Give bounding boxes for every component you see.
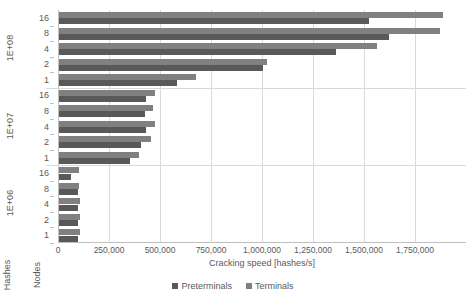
y-tick-label-node: 16 — [9, 13, 49, 23]
y-tick-label-node: 1 — [9, 153, 49, 163]
legend-item[interactable]: Terminals — [246, 281, 294, 291]
bar-terminals — [59, 167, 79, 173]
bar-terminals — [59, 59, 267, 65]
x-tick-label: 1,000,000 — [243, 245, 281, 256]
bar-preterminals — [59, 34, 389, 40]
x-tick-label: 1,750,000 — [396, 245, 434, 256]
y-tick-mark — [50, 243, 54, 244]
y-tick-mark — [50, 196, 54, 197]
bar-preterminals — [59, 65, 263, 71]
legend-label: Preterminals — [181, 281, 232, 291]
bar-chart: 1684211E+081684211E+071684211E+06 0250,0… — [0, 0, 466, 303]
y-tick-mark — [50, 41, 54, 42]
bar-terminals — [59, 28, 440, 34]
x-tick-label: 750,000 — [196, 245, 227, 256]
bar-terminals — [59, 152, 139, 158]
bar-preterminals — [59, 127, 146, 133]
bar-preterminals — [59, 142, 141, 148]
bar-terminals — [59, 198, 80, 204]
x-tick-label: 500,000 — [145, 245, 176, 256]
bar-terminals — [59, 121, 155, 127]
y-tick-mark — [50, 181, 54, 182]
bar-terminals — [59, 105, 153, 111]
bar-preterminals — [59, 205, 78, 211]
y-tick-label-node: 4 — [9, 122, 49, 132]
y-tick-label-node: 1 — [9, 75, 49, 85]
bar-preterminals — [59, 49, 336, 55]
y-tick-label-node: 1 — [9, 230, 49, 240]
y-tick-label-node: 8 — [9, 28, 49, 38]
y-axis-group-label: 1E+08 — [5, 18, 15, 78]
legend-item[interactable]: Preterminals — [172, 281, 232, 291]
bar-preterminals — [59, 174, 71, 180]
y-tick-label-node: 8 — [9, 184, 49, 194]
bar-terminals — [59, 74, 196, 80]
y-axis-group-label: 1E+06 — [5, 173, 15, 233]
legend-swatch-icon — [246, 283, 252, 289]
legend-swatch-icon — [172, 283, 178, 289]
y-tick-mark — [50, 227, 54, 228]
bar-preterminals — [59, 111, 145, 117]
y-axis-group-label: 1E+07 — [5, 96, 15, 156]
bar-preterminals — [59, 18, 369, 24]
legend-label: Terminals — [255, 281, 294, 291]
group-separator — [46, 88, 466, 89]
bar-terminals — [59, 90, 155, 96]
bar-preterminals — [59, 80, 177, 86]
group-separator — [46, 165, 466, 166]
bar-terminals — [59, 136, 151, 142]
x-axis-title: Cracking speed [hashes/s] — [58, 258, 466, 268]
y-tick-label-node: 8 — [9, 106, 49, 116]
y-tick-mark — [50, 119, 54, 120]
bar-terminals — [59, 183, 79, 189]
nodes-axis-title: Nodes — [32, 252, 42, 298]
bar-preterminals — [59, 236, 78, 242]
y-tick-mark — [50, 72, 54, 73]
legend: PreterminalsTerminals — [0, 281, 466, 291]
x-tick-labels: 0250,000500,000750,0001,000,0001,250,000… — [0, 245, 466, 259]
bar-preterminals — [59, 96, 146, 102]
y-tick-label-node: 16 — [9, 90, 49, 100]
y-tick-label-node: 4 — [9, 44, 49, 54]
bars-layer — [59, 10, 466, 243]
y-tick-label-node: 2 — [9, 215, 49, 225]
y-tick-mark — [50, 150, 54, 151]
x-tick-label: 1,500,000 — [345, 245, 383, 256]
y-tick-mark — [50, 103, 54, 104]
bar-preterminals — [59, 158, 130, 164]
y-tick-mark — [50, 26, 54, 27]
bar-terminals — [59, 214, 80, 220]
y-tick-mark — [50, 134, 54, 135]
bar-terminals — [59, 12, 443, 18]
y-tick-label-node: 16 — [9, 168, 49, 178]
x-tick-label: 1,250,000 — [294, 245, 332, 256]
x-tick-label: 250,000 — [94, 245, 125, 256]
x-tick-label: 0 — [56, 245, 61, 256]
plot-area — [58, 10, 466, 243]
bar-terminals — [59, 229, 80, 235]
y-tick-label-node: 4 — [9, 199, 49, 209]
bar-preterminals — [59, 189, 78, 195]
hashes-axis-title: Hashes — [2, 252, 12, 298]
bar-preterminals — [59, 220, 78, 226]
y-tick-label-node: 2 — [9, 59, 49, 69]
y-tick-label-node: 2 — [9, 137, 49, 147]
y-axis: 1684211E+081684211E+071684211E+06 — [0, 10, 54, 243]
y-tick-mark — [50, 212, 54, 213]
y-tick-mark — [50, 57, 54, 58]
bar-terminals — [59, 43, 377, 49]
